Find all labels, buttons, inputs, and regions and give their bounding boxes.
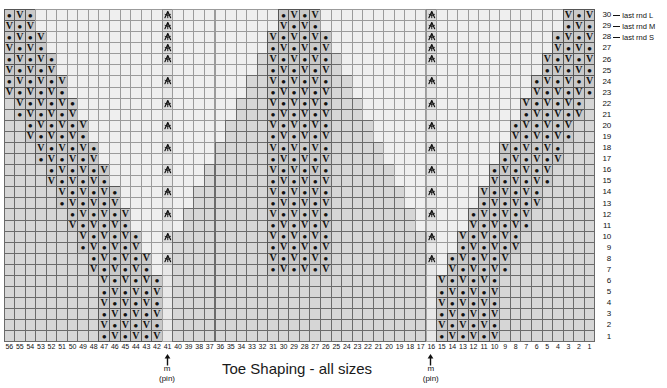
knit-dot-icon: • (574, 99, 584, 109)
slip-stitch-v-icon: V (68, 221, 78, 231)
knit-dot-icon: • (479, 243, 489, 253)
knit-dot-icon: • (564, 132, 574, 142)
slip-stitch-v-icon: V (289, 209, 299, 219)
centered-double-decrease-icon (427, 43, 437, 53)
slip-stitch-v-icon: V (36, 99, 46, 109)
slip-stitch-v-icon: V (321, 198, 331, 208)
knit-dot-icon: • (26, 32, 36, 42)
slip-stitch-v-icon: V (300, 110, 310, 120)
slip-stitch-v-icon: V (279, 198, 289, 208)
row-number-label: 10 (597, 233, 611, 241)
slip-stitch-v-icon: V (26, 21, 36, 31)
knit-dot-icon: • (57, 88, 67, 98)
knit-dot-icon: • (564, 21, 574, 31)
slip-stitch-v-icon: V (89, 154, 99, 164)
slip-stitch-v-icon: V (521, 165, 531, 175)
knit-dot-icon: • (490, 320, 500, 330)
slip-stitch-v-icon: V (469, 287, 479, 297)
slip-stitch-v-icon: V (521, 143, 531, 153)
knit-dot-icon: • (479, 198, 489, 208)
knit-dot-icon: • (543, 176, 553, 186)
row-number-label: 8 (597, 255, 611, 263)
knit-dot-icon: • (68, 209, 78, 219)
slip-stitch-v-icon: V (479, 320, 489, 330)
legend-dash (613, 37, 620, 38)
slip-stitch-v-icon: V (89, 198, 99, 208)
slip-stitch-v-icon: V (574, 65, 584, 75)
slip-stitch-v-icon: V (469, 243, 479, 253)
knit-dot-icon: • (121, 331, 131, 341)
knit-dot-icon: • (521, 110, 531, 120)
centered-double-decrease-icon (163, 165, 173, 175)
slip-stitch-v-icon: V (36, 54, 46, 64)
knit-dot-icon: • (36, 110, 46, 120)
slip-stitch-v-icon: V (437, 298, 447, 308)
knit-dot-icon: • (458, 309, 468, 319)
slip-stitch-v-icon: V (89, 265, 99, 275)
slip-stitch-v-icon: V (532, 176, 542, 186)
pin-marker-label: m (164, 364, 171, 373)
knit-dot-icon: • (553, 32, 563, 42)
knit-dot-icon: • (5, 10, 15, 20)
slip-stitch-v-icon: V (47, 154, 57, 164)
slip-stitch-v-icon: V (310, 99, 320, 109)
slip-stitch-v-icon: V (532, 88, 542, 98)
slip-stitch-v-icon: V (300, 265, 310, 275)
knit-dot-icon: • (78, 154, 88, 164)
knit-dot-icon: • (448, 254, 458, 264)
slip-stitch-v-icon: V (279, 110, 289, 120)
knit-dot-icon: • (289, 110, 299, 120)
slip-stitch-v-icon: V (300, 88, 310, 98)
knit-dot-icon: • (448, 298, 458, 308)
knit-dot-icon: • (300, 209, 310, 219)
row-number-label: 5 (597, 288, 611, 296)
slip-stitch-v-icon: V (511, 243, 521, 253)
knit-dot-icon: • (543, 88, 553, 98)
row-number-label: 12 (597, 211, 611, 219)
knit-dot-icon: • (289, 65, 299, 75)
knit-dot-icon: • (310, 43, 320, 53)
knit-dot-icon: • (279, 121, 289, 131)
knit-dot-icon: • (26, 10, 36, 20)
legend-label: last rnd M (622, 23, 655, 31)
slip-stitch-v-icon: V (268, 165, 278, 175)
knit-dot-icon: • (68, 165, 78, 175)
knit-dot-icon: • (500, 265, 510, 275)
slip-stitch-v-icon: V (310, 54, 320, 64)
slip-stitch-v-icon: V (78, 187, 88, 197)
slip-stitch-v-icon: V (289, 187, 299, 197)
slip-stitch-v-icon: V (279, 88, 289, 98)
knit-dot-icon: • (511, 209, 521, 219)
knit-dot-icon: • (57, 110, 67, 120)
slip-stitch-v-icon: V (110, 198, 120, 208)
slip-stitch-v-icon: V (99, 298, 109, 308)
slip-stitch-v-icon: V (532, 110, 542, 120)
slip-stitch-v-icon: V (500, 143, 510, 153)
column-number-label: 1 (583, 343, 597, 350)
slip-stitch-v-icon: V (469, 265, 479, 275)
knit-dot-icon: • (36, 154, 46, 164)
knit-dot-icon: • (121, 265, 131, 275)
knit-dot-icon: • (469, 276, 479, 286)
slip-stitch-v-icon: V (268, 121, 278, 131)
knit-dot-icon: • (121, 221, 131, 231)
knit-dot-icon: • (57, 198, 67, 208)
knit-dot-icon: • (543, 132, 553, 142)
knit-dot-icon: • (279, 76, 289, 86)
knit-dot-icon: • (289, 88, 299, 98)
row-number-label: 30 (597, 11, 611, 19)
centered-double-decrease-icon (163, 21, 173, 31)
knit-dot-icon: • (543, 110, 553, 120)
slip-stitch-v-icon: V (289, 76, 299, 86)
slip-stitch-v-icon: V (458, 320, 468, 330)
slip-stitch-v-icon: V (300, 154, 310, 164)
knit-dot-icon: • (310, 243, 320, 253)
knit-dot-icon: • (268, 154, 278, 164)
centered-double-decrease-icon (163, 209, 173, 219)
knit-dot-icon: • (553, 99, 563, 109)
slip-stitch-v-icon: V (553, 110, 563, 120)
slip-stitch-v-icon: V (458, 254, 468, 264)
row-number-label: 3 (597, 310, 611, 318)
slip-stitch-v-icon: V (553, 88, 563, 98)
slip-stitch-v-icon: V (458, 298, 468, 308)
